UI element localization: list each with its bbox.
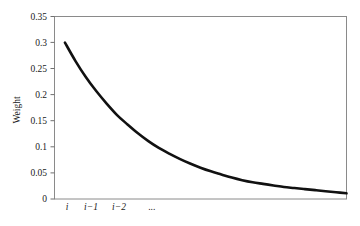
x-tick-label-2: i−2 bbox=[112, 202, 126, 212]
y-tick-label-5: 0.25 bbox=[30, 64, 47, 74]
plot-frame bbox=[55, 17, 347, 200]
x-tick-label-3: ... bbox=[148, 202, 155, 212]
y-tick-label-3: 0.15 bbox=[30, 116, 47, 126]
chart-figure: 0 0.05 0.1 0.15 0.2 0.25 0.3 0.35 Weight… bbox=[0, 0, 360, 226]
weight-decay-line-chart: 0 0.05 0.1 0.15 0.2 0.25 0.3 0.35 Weight… bbox=[0, 0, 360, 226]
y-tick-label-1: 0.05 bbox=[30, 168, 47, 178]
x-tick-label-0: i bbox=[66, 202, 69, 212]
y-tick-label-0: 0 bbox=[42, 194, 47, 204]
y-tick-label-6: 0.3 bbox=[35, 38, 47, 48]
y-axis-title: Weight bbox=[12, 96, 22, 124]
y-tick-label-4: 0.2 bbox=[35, 90, 47, 100]
y-tick-label-2: 0.1 bbox=[35, 142, 47, 152]
y-tick-label-7: 0.35 bbox=[30, 12, 47, 22]
x-tick-label-1: i−1 bbox=[84, 202, 98, 212]
